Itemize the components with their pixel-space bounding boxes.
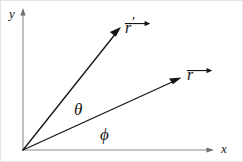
diagram-canvas — [0, 0, 243, 162]
y-axis — [20, 8, 25, 150]
y-axis-arrowhead-icon — [20, 8, 25, 16]
y-axis-label: y — [9, 7, 15, 20]
overarrow-icon — [124, 19, 150, 26]
angle-theta-label: θ — [74, 101, 82, 118]
x-axis-label: x — [221, 142, 227, 155]
overarrow-icon — [186, 66, 212, 73]
vector-diagram-figure: y x θ ϕ r ′ r — [0, 0, 243, 162]
vector-r-prime-arrowhead-icon — [110, 27, 121, 37]
angle-phi-label: ϕ — [100, 126, 109, 143]
vector-r-label: r — [186, 67, 194, 83]
vector-r-symbol-stack: r — [186, 67, 194, 83]
x-axis — [23, 148, 214, 153]
x-axis-arrowhead-icon — [207, 148, 215, 153]
vector-r-prime-symbol-stack: r — [124, 20, 132, 36]
vector-r-prime-label: r ′ — [124, 16, 134, 36]
